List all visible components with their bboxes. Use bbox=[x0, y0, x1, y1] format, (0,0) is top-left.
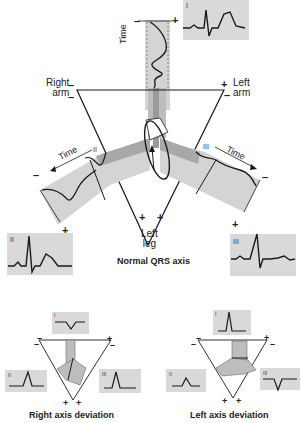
rad-plus-sign-2: + bbox=[63, 398, 68, 409]
right-arm-minus-sign: – bbox=[68, 80, 74, 91]
lead-ii-ecg-panel bbox=[7, 233, 73, 275]
lead-i-minus-sign: – bbox=[134, 16, 140, 27]
time-label-lead-i: Time bbox=[118, 24, 128, 44]
lead-ii-minus-sign: – bbox=[33, 170, 39, 181]
rad-plus-sign-3: + bbox=[76, 398, 81, 409]
lad-minus-sign-2: – bbox=[191, 339, 196, 350]
lead-ii-plus-sign: + bbox=[62, 225, 68, 236]
rad-minus-sign-2: – bbox=[34, 339, 39, 350]
lad-plus-sign-2: + bbox=[222, 396, 227, 407]
lad-plus-sign-3: + bbox=[236, 396, 241, 407]
left-arm-label: Left arm bbox=[233, 78, 250, 98]
lead-iii-panel-label: III bbox=[233, 238, 239, 245]
left-leg-plus-sign-iii: + bbox=[157, 212, 163, 223]
left-axis-deviation-title: Left axis deviation bbox=[190, 410, 269, 420]
rad-lead-iii-label: III bbox=[102, 371, 106, 377]
lead-iii-ecg-panel bbox=[230, 234, 296, 276]
rad-lead-i-label: I bbox=[54, 312, 55, 318]
right-axis-deviation-title: Right axis deviation bbox=[29, 410, 114, 420]
lead-iii-band-label: III bbox=[203, 143, 209, 150]
lad-lead-iii-label: III bbox=[263, 370, 267, 376]
lad-lead-i-label: I bbox=[215, 311, 216, 317]
lad-minus-sign-3: – bbox=[270, 339, 275, 350]
lead-ii-band-label: II bbox=[93, 146, 97, 153]
lead-ii-panel-label: II bbox=[10, 236, 14, 243]
left-axis-deviation-diagram bbox=[166, 310, 300, 398]
lead-i-plus-sign: + bbox=[172, 15, 178, 26]
main-diagram-title: Normal QRS axis bbox=[117, 256, 190, 266]
right-axis-deviation-diagram bbox=[5, 312, 141, 400]
right-arm-label: Right arm bbox=[46, 78, 69, 98]
einthoven-triangle-diagram bbox=[0, 0, 301, 423]
lad-minus-sign-1: – bbox=[196, 333, 201, 344]
lead-i-panel-label: I bbox=[186, 2, 188, 9]
lead-iii-minus-sign: – bbox=[262, 172, 268, 183]
rad-lead-ii-label: II bbox=[8, 372, 11, 378]
rad-minus-sign-3: – bbox=[110, 340, 115, 351]
left-leg-label: Left leg bbox=[141, 229, 158, 249]
lead-iii-projection-band bbox=[160, 138, 260, 212]
lead-i-ecg-panel bbox=[183, 0, 249, 40]
right-arm-minus-sign-2: – bbox=[68, 92, 74, 103]
lad-plus-sign: + bbox=[264, 333, 269, 344]
left-leg-plus-sign-ii: + bbox=[139, 212, 145, 223]
left-arm-minus-sign: – bbox=[224, 90, 230, 101]
lad-lead-ii-label: II bbox=[169, 371, 172, 377]
lead-iii-plus-sign: + bbox=[232, 219, 238, 230]
